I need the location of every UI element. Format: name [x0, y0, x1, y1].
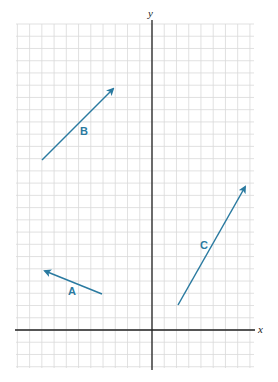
vector-b-arrow [42, 89, 113, 160]
grid-lines [16, 24, 254, 368]
vector-b: B [42, 89, 113, 160]
coordinate-grid-diagram: x y A B C [0, 0, 278, 382]
vector-a-label: A [68, 285, 76, 297]
vector-c-arrow [178, 187, 245, 305]
vector-c-label: C [200, 239, 208, 251]
vector-c: C [178, 187, 245, 305]
x-axis-label: x [257, 323, 263, 335]
vector-b-label: B [80, 125, 88, 137]
y-axis-label: y [147, 7, 153, 19]
